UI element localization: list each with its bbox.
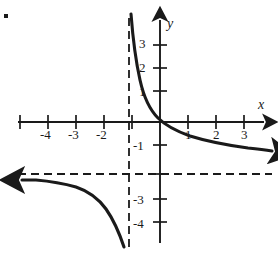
- x-tick-label: -4: [40, 128, 51, 141]
- curve-branch-left: [22, 180, 124, 247]
- x-tick-label: 1: [185, 128, 192, 141]
- x-axis: [18, 115, 264, 129]
- x-tick-label: 2: [213, 128, 220, 141]
- y-tick-label: 2: [139, 61, 146, 74]
- x-tick-label: -2: [96, 128, 107, 141]
- y-tick-label: 1: [139, 85, 146, 98]
- graph-figure: -4 -3 -2 1 2 3 3 2 1 -1 -3 -4 x y: [0, 0, 278, 257]
- x-tick-label: 3: [241, 128, 248, 141]
- y-axis: [153, 20, 167, 243]
- y-tick-label: 3: [139, 37, 146, 50]
- x-tick-label: -3: [68, 128, 79, 141]
- y-tick-label: -1: [133, 139, 144, 152]
- y-axis-label: y: [167, 17, 173, 31]
- y-tick-label: -3: [133, 193, 144, 206]
- y-tick-label: -4: [133, 217, 144, 230]
- curve-branch-right: [131, 14, 272, 151]
- x-axis-label: x: [258, 98, 264, 112]
